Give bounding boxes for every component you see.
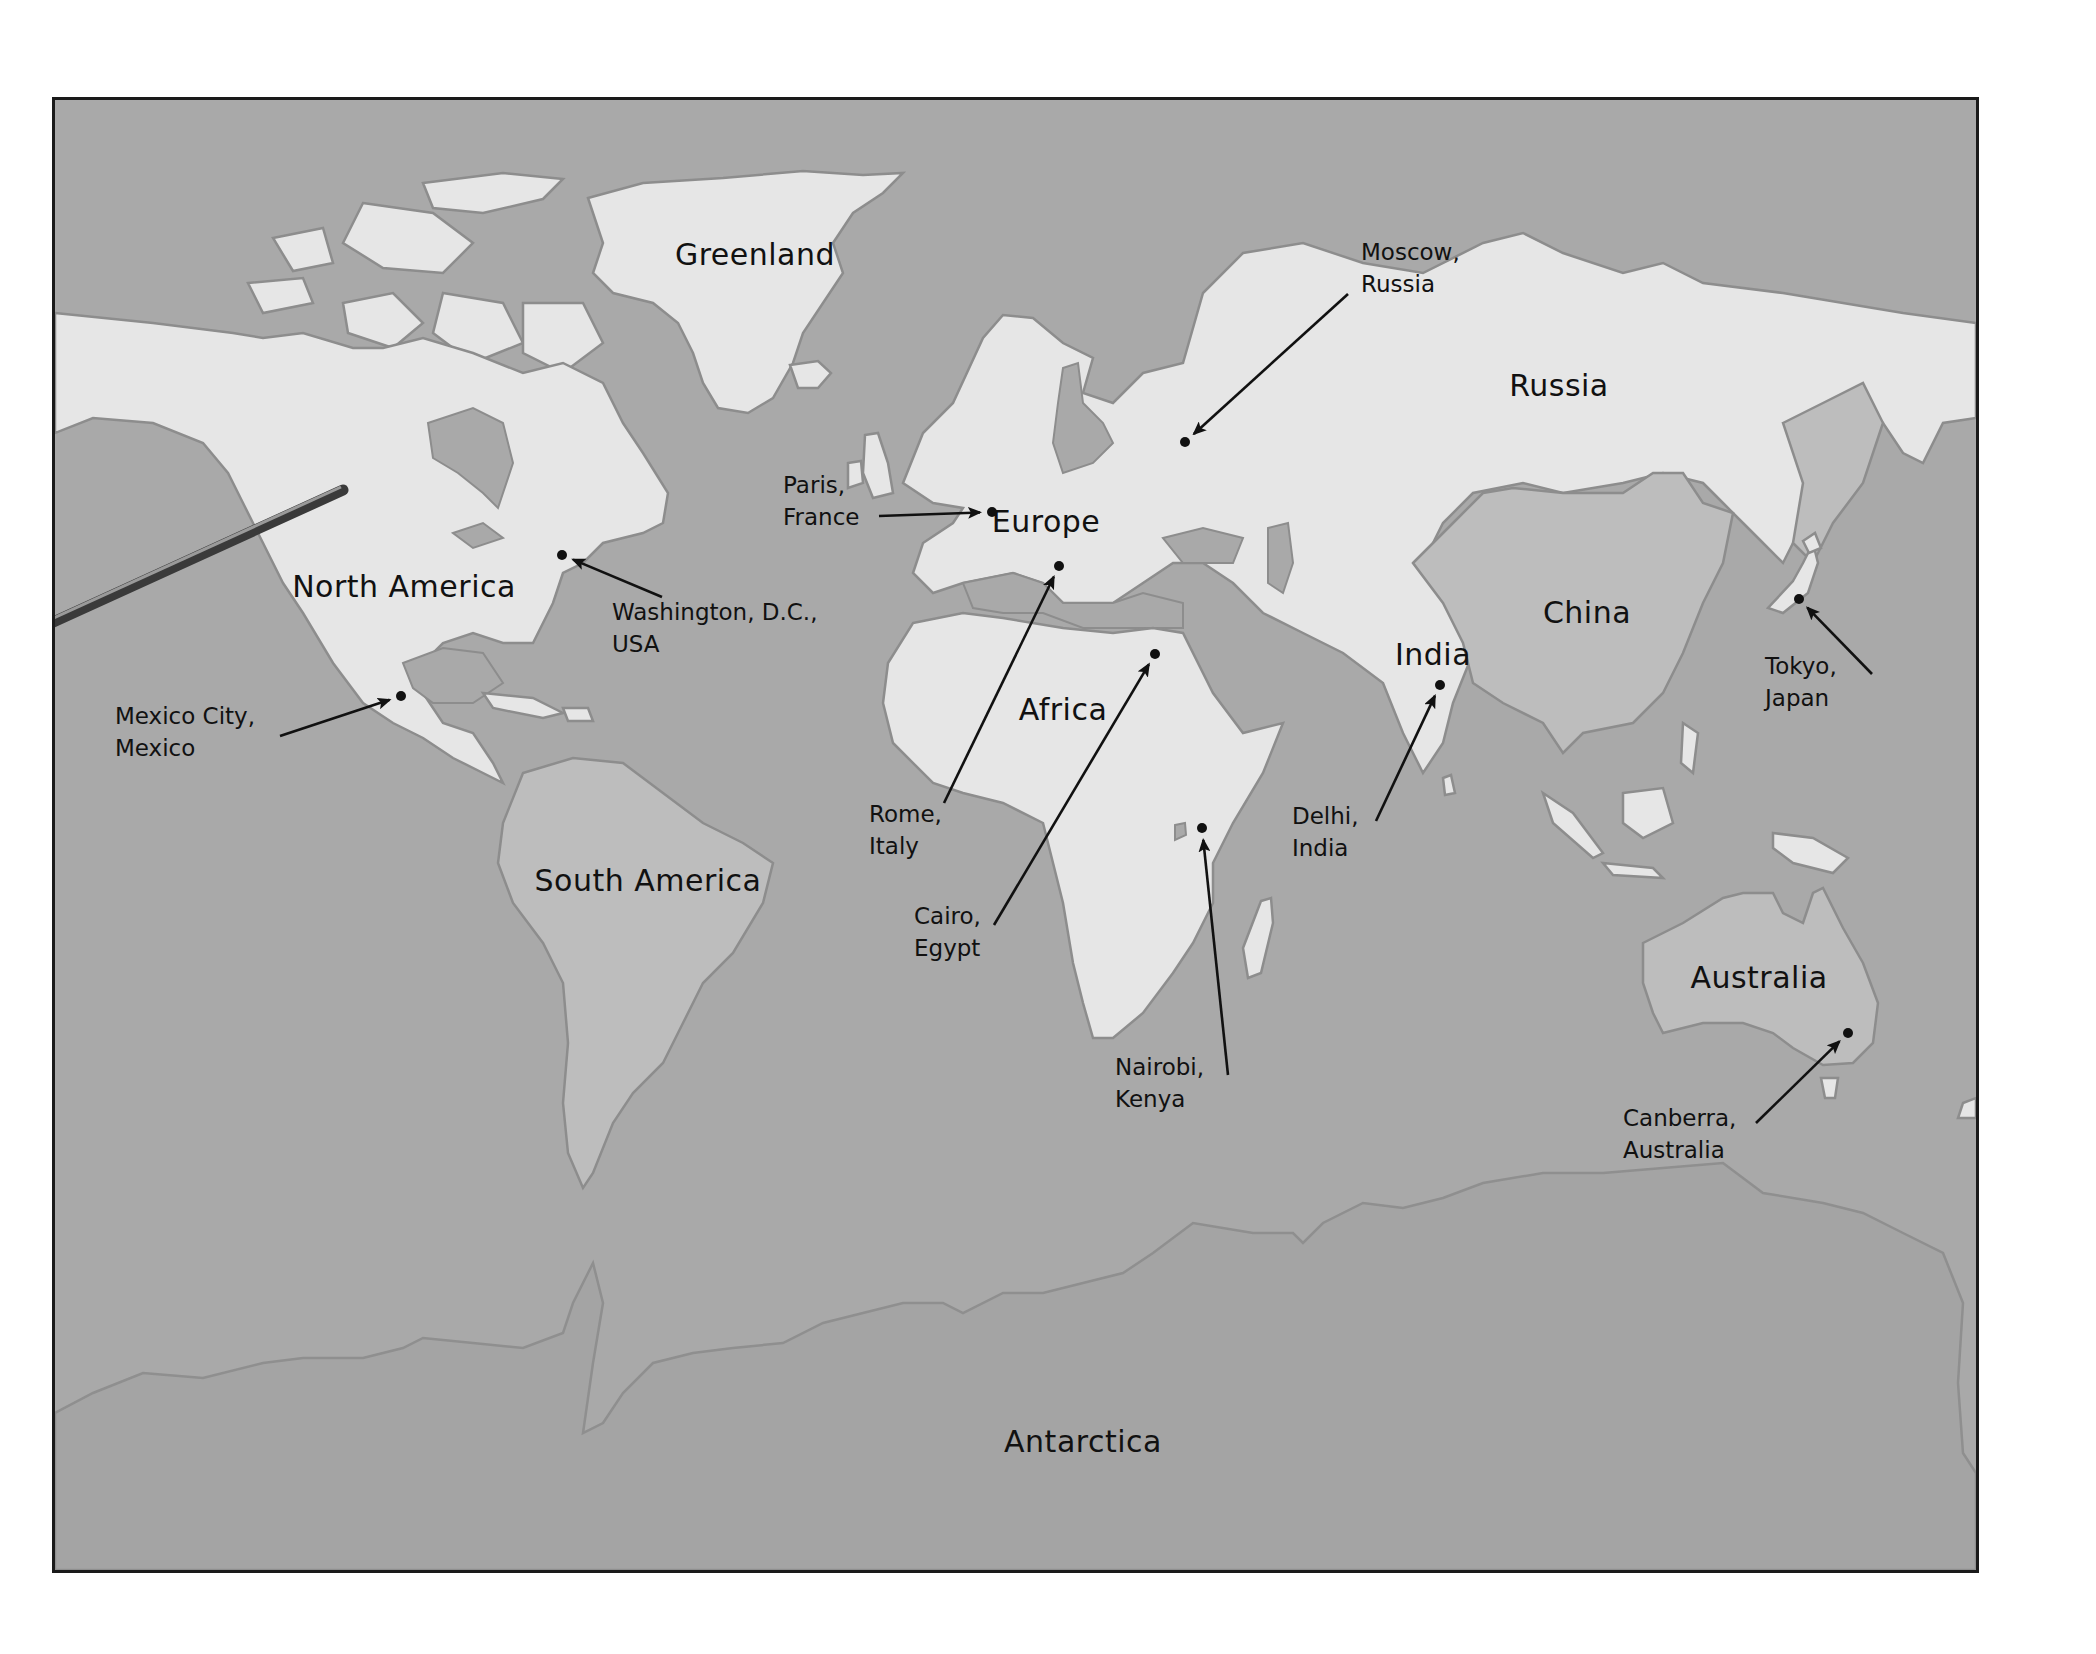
city-name: Cairo, <box>914 900 981 932</box>
city-name: Moscow, <box>1361 236 1460 268</box>
city-name: Tokyo, <box>1765 650 1837 682</box>
city-dot-moscow <box>1180 437 1190 447</box>
city-name: Washington, D.C., <box>612 596 817 628</box>
city-dot-nairobi <box>1197 823 1207 833</box>
label-australia: Australia <box>1690 960 1827 995</box>
country-name: USA <box>612 628 817 660</box>
label-greenland: Greenland <box>675 237 835 272</box>
caribbean-islands <box>563 708 593 721</box>
tasmania <box>1821 1078 1838 1098</box>
south-america-shape <box>498 758 773 1188</box>
country-name: Italy <box>869 830 942 862</box>
city-dot-canberra <box>1843 1028 1853 1038</box>
city-dot-tokyo <box>1794 594 1804 604</box>
country-name: Kenya <box>1115 1083 1204 1115</box>
city-label-cairo: Cairo,Egypt <box>914 900 981 964</box>
borneo <box>1623 788 1673 838</box>
city-label-tokyo: Tokyo,Japan <box>1765 650 1837 714</box>
label-south-america: South America <box>535 863 762 898</box>
country-name: Russia <box>1361 268 1460 300</box>
label-africa: Africa <box>1019 692 1108 727</box>
country-name: Egypt <box>914 932 981 964</box>
label-china: China <box>1543 595 1631 630</box>
city-label-mexico-city: Mexico City,Mexico <box>115 700 255 764</box>
sri-lanka <box>1443 775 1455 795</box>
city-dot-rome <box>1054 561 1064 571</box>
arrow-washington <box>573 560 662 597</box>
label-europe: Europe <box>992 504 1101 539</box>
new-guinea <box>1773 833 1848 873</box>
iceland <box>790 361 831 388</box>
madagascar <box>1243 898 1273 978</box>
city-name: Mexico City, <box>115 700 255 732</box>
label-antarctica: Antarctica <box>1004 1424 1162 1459</box>
arctic-island <box>273 228 333 271</box>
city-name: Rome, <box>869 798 942 830</box>
arrow-mexico-city <box>280 700 390 736</box>
label-russia: Russia <box>1509 368 1609 403</box>
country-name: India <box>1292 832 1359 864</box>
java <box>1603 863 1663 878</box>
city-label-washington: Washington, D.C.,USA <box>612 596 817 660</box>
world-map <box>52 97 1979 1573</box>
city-label-rome: Rome,Italy <box>869 798 942 862</box>
arctic-island <box>343 203 473 273</box>
label-india: India <box>1395 637 1471 672</box>
city-dot-mexico-city <box>396 691 406 701</box>
city-label-moscow: Moscow,Russia <box>1361 236 1460 300</box>
city-dot-cairo <box>1150 649 1160 659</box>
philippines <box>1681 723 1698 773</box>
city-dot-washington <box>557 550 567 560</box>
country-name: Australia <box>1623 1134 1736 1166</box>
city-name: Paris, <box>783 469 859 501</box>
city-name: Canberra, <box>1623 1102 1736 1134</box>
city-name: Nairobi, <box>1115 1051 1204 1083</box>
map-canvas <box>55 100 1976 1570</box>
country-name: Japan <box>1765 682 1837 714</box>
city-label-delhi: Delhi,India <box>1292 800 1359 864</box>
city-label-canberra: Canberra,Australia <box>1623 1102 1736 1166</box>
sumatra <box>1543 793 1603 858</box>
uk <box>863 433 893 498</box>
new-zealand <box>1958 1098 1976 1118</box>
country-name: France <box>783 501 859 533</box>
city-label-paris: Paris,France <box>783 469 859 533</box>
city-label-nairobi: Nairobi,Kenya <box>1115 1051 1204 1115</box>
caribbean-islands <box>483 693 563 718</box>
arctic-island <box>423 173 563 213</box>
arrow-nairobi <box>1203 840 1228 1075</box>
city-name: Delhi, <box>1292 800 1359 832</box>
africa-shape <box>883 613 1283 1038</box>
antarctica-shape <box>55 1163 1976 1570</box>
arctic-island <box>248 278 313 313</box>
greenland-shape <box>588 171 903 413</box>
country-name: Mexico <box>115 732 255 764</box>
label-north-america: North America <box>292 569 516 604</box>
city-dot-delhi <box>1435 680 1445 690</box>
